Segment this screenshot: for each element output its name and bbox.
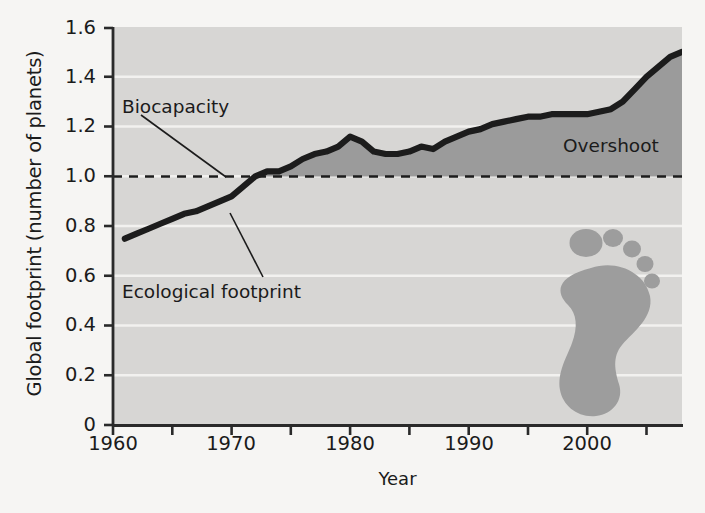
chart-figure: Global footprint (number of planets) Yea… xyxy=(0,0,705,513)
y-tick-label-08: 0.8 xyxy=(36,214,96,237)
y-tick-label-14: 1.4 xyxy=(36,65,96,88)
y-tick-label-02: 0.2 xyxy=(36,363,96,386)
x-tick-label-1960: 1960 xyxy=(68,432,158,455)
x-tick-label-1980: 1980 xyxy=(305,432,395,455)
x-tick-label-2000: 2000 xyxy=(542,432,632,455)
y-tick-label-06: 0.6 xyxy=(36,264,96,287)
y-tick-label-12: 1.2 xyxy=(36,114,96,137)
y-tick-label-16: 1.6 xyxy=(36,16,96,39)
x-tick-label-1990: 1990 xyxy=(424,432,514,455)
x-axis-title: Year xyxy=(110,468,685,489)
annotation-biocapacity: Biocapacity xyxy=(122,96,229,117)
annotation-overshoot: Overshoot xyxy=(563,135,659,156)
x-tick-label-1970: 1970 xyxy=(186,432,276,455)
y-tick-label-04: 0.4 xyxy=(36,313,96,336)
annotation-ecological-footprint: Ecological footprint xyxy=(122,281,301,302)
y-tick-label-10: 1.0 xyxy=(36,164,96,187)
